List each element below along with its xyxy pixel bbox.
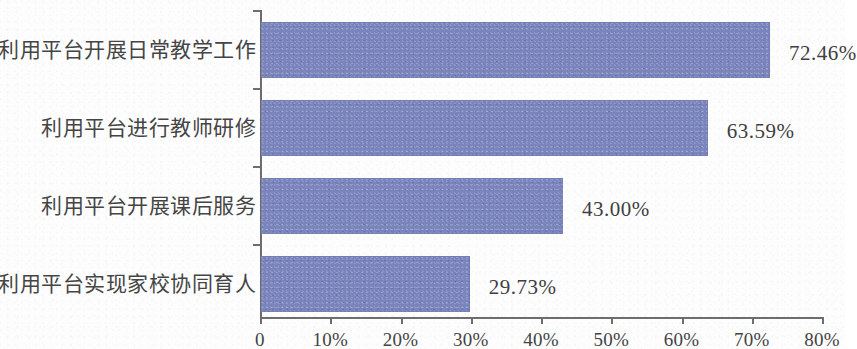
- y-axis-tick: [253, 166, 260, 168]
- bar-3: [261, 256, 470, 312]
- x-axis-tick-label: 80%: [804, 330, 840, 349]
- bar-0: [261, 22, 770, 78]
- x-axis-tick: [260, 317, 262, 324]
- value-label-3: 29.73%: [489, 277, 557, 298]
- bar-2: [261, 178, 563, 234]
- x-axis-tick: [471, 317, 473, 324]
- x-axis-tick-label: 30%: [453, 330, 489, 349]
- category-label-2: 利用平台开展课后服务: [0, 196, 256, 217]
- y-axis-tick: [253, 10, 260, 12]
- x-axis-tick: [401, 317, 403, 324]
- y-axis-tick: [253, 88, 260, 90]
- y-axis-tick: [253, 244, 260, 246]
- category-label-1: 利用平台进行教师研修: [0, 118, 256, 139]
- x-axis-tick: [611, 317, 613, 324]
- x-axis-tick: [682, 317, 684, 324]
- value-label-1: 63.59%: [727, 121, 795, 142]
- x-axis-tick-label: 50%: [593, 330, 629, 349]
- plot-area: 72.46% 63.59% 43.00% 29.73% 010%20%30%40…: [260, 10, 822, 317]
- category-label-0: 利用平台开展日常教学工作: [0, 40, 256, 61]
- x-axis-tick-label: 70%: [734, 330, 770, 349]
- x-axis-tick-label: 60%: [664, 330, 700, 349]
- x-axis-tick-label: 10%: [312, 330, 348, 349]
- x-axis-tick: [330, 317, 332, 324]
- x-axis-tick-label: 20%: [383, 330, 419, 349]
- x-axis-tick: [541, 317, 543, 324]
- x-axis-tick-label: 0: [255, 330, 265, 349]
- value-label-2: 43.00%: [582, 199, 650, 220]
- x-axis-tick: [752, 317, 754, 324]
- value-label-0: 72.46%: [789, 43, 857, 64]
- x-axis-tick: [822, 317, 824, 324]
- category-label-3: 利用平台实现家校协同育人: [0, 274, 256, 295]
- bar-1: [261, 100, 708, 156]
- x-axis-tick-label: 40%: [523, 330, 559, 349]
